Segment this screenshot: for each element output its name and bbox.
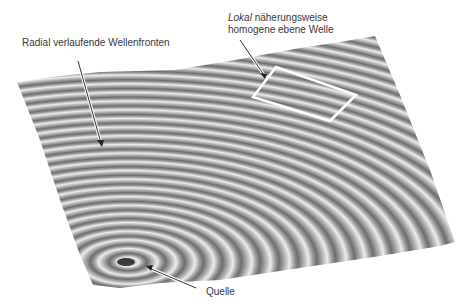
local-label-italic: Lokal <box>228 12 252 23</box>
source-label: Quelle <box>206 286 235 298</box>
local-wave-label: Lokal näherungsweise homogene ebene Well… <box>228 12 333 36</box>
wavefronts-label: Radial verlaufende Wellenfronten <box>22 37 170 49</box>
local-label-rest: näherungsweise <box>252 12 328 23</box>
local-label-line2: homogene ebene Welle <box>228 24 333 35</box>
source-center <box>117 258 135 266</box>
